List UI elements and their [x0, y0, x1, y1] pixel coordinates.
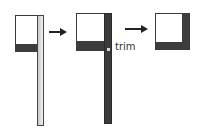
step1-bottom-band: [15, 44, 38, 52]
step3-right-column: [182, 13, 190, 50]
step1-light-strip: [37, 15, 44, 126]
step2-dark-strip: [104, 13, 112, 124]
trim-label: trim: [115, 42, 136, 52]
step2-bottom-band: [76, 41, 106, 50]
arrow-right-icon: [49, 31, 65, 33]
arrow-right-icon: [125, 28, 146, 30]
trim-point-marker: [107, 48, 110, 51]
